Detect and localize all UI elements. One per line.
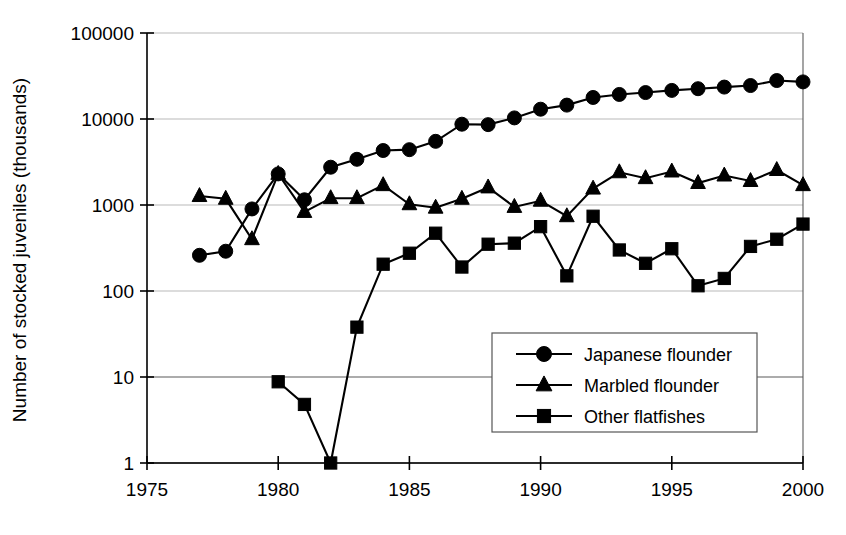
- data-point: [769, 162, 784, 176]
- data-point: [612, 87, 626, 101]
- data-point: [192, 248, 206, 262]
- data-point: [403, 247, 415, 259]
- x-tick-label-2000: 2000: [782, 479, 824, 500]
- data-point: [402, 196, 417, 210]
- y-tick-label-100: 100: [102, 281, 134, 302]
- data-point: [429, 134, 443, 148]
- chart-legend: Japanese flounderMarbled flounderOther f…: [492, 333, 757, 432]
- data-point: [456, 261, 468, 273]
- data-point: [272, 376, 284, 388]
- data-point: [796, 177, 811, 191]
- data-point: [744, 79, 758, 93]
- data-point: [770, 74, 784, 88]
- legend-marker-circle-icon: [537, 347, 552, 362]
- data-point: [350, 152, 364, 166]
- data-point: [561, 270, 573, 282]
- data-point: [298, 398, 310, 410]
- data-point: [325, 457, 337, 469]
- data-point: [744, 240, 756, 252]
- data-point: [351, 321, 363, 333]
- data-point: [376, 144, 390, 158]
- data-point: [796, 75, 810, 89]
- data-point: [508, 237, 520, 249]
- data-point: [507, 111, 521, 125]
- y-axis-tick-labels: 110100100010000100000: [71, 23, 134, 474]
- data-point: [481, 179, 496, 193]
- data-point: [613, 244, 625, 256]
- data-point: [639, 86, 653, 100]
- x-tick-label-1990: 1990: [519, 479, 561, 500]
- data-point: [586, 180, 601, 194]
- chart-figure: 197519801985199019952000 110100100010000…: [0, 0, 846, 535]
- data-point: [534, 221, 546, 233]
- data-point: [664, 163, 679, 177]
- data-point: [192, 188, 207, 202]
- data-point: [718, 272, 730, 284]
- data-point: [219, 244, 233, 258]
- y-tick-label-10: 10: [113, 367, 134, 388]
- data-point: [377, 258, 389, 270]
- x-axis-tick-labels: 197519801985199019952000: [126, 479, 824, 500]
- x-tick-label-1980: 1980: [257, 479, 299, 500]
- data-point: [482, 238, 494, 250]
- data-point: [534, 102, 548, 116]
- data-point: [612, 164, 627, 178]
- series-line: [199, 81, 803, 256]
- x-tick-label-1995: 1995: [651, 479, 693, 500]
- x-tick-label-1975: 1975: [126, 479, 168, 500]
- legend-label-marbled-flounder: Marbled flounder: [584, 376, 719, 396]
- y-axis-title: Number of stocked juveniles (thousands): [9, 78, 30, 422]
- y-tick-label-1000: 1000: [92, 195, 134, 216]
- data-point: [666, 243, 678, 255]
- data-point: [324, 160, 338, 174]
- data-point: [691, 82, 705, 96]
- data-point: [376, 177, 391, 191]
- data-point: [481, 118, 495, 132]
- legend-marker-square-icon: [537, 409, 550, 422]
- data-point: [323, 190, 338, 204]
- data-point: [797, 218, 809, 230]
- data-point: [430, 227, 442, 239]
- x-tick-label-1985: 1985: [388, 479, 430, 500]
- series-japanese-flounder: [192, 74, 810, 263]
- legend-label-japanese-flounder: Japanese flounder: [584, 345, 732, 365]
- data-point: [717, 80, 731, 94]
- data-point: [587, 210, 599, 222]
- data-point: [665, 83, 679, 97]
- y-tick-label-100000: 100000: [71, 23, 134, 44]
- legend-label-other-flatfishes: Other flatfishes: [584, 407, 705, 427]
- y-tick-label-10000: 10000: [81, 109, 134, 130]
- y-tick-label-1: 1: [123, 453, 134, 474]
- data-point: [639, 257, 651, 269]
- log-line-chart: 197519801985199019952000 110100100010000…: [0, 0, 846, 535]
- data-point: [586, 90, 600, 104]
- data-point: [692, 280, 704, 292]
- data-point: [455, 117, 469, 131]
- data-point: [560, 98, 574, 112]
- data-point: [533, 192, 548, 206]
- data-point: [717, 167, 732, 181]
- data-point: [771, 233, 783, 245]
- data-point: [402, 143, 416, 157]
- data-point: [245, 202, 259, 216]
